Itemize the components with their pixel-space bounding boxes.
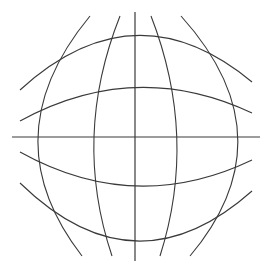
spherical-grid-diagram — [0, 0, 269, 270]
